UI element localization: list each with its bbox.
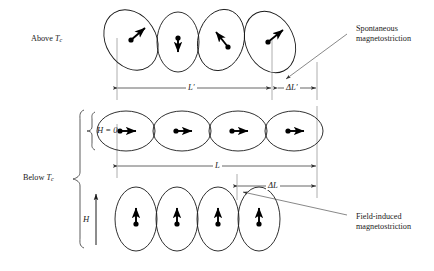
domain-row-above-tc xyxy=(93,0,305,81)
moment-vector-5 xyxy=(117,128,136,133)
moment-vector-10 xyxy=(174,208,179,227)
moment-vector-7 xyxy=(229,128,248,133)
guide-lines xyxy=(117,38,317,200)
h-zero-bracket xyxy=(87,112,95,150)
annotation-field-induced-line2: magnetostriction xyxy=(356,222,411,232)
moment-vector-9 xyxy=(133,208,138,227)
annotation-spontaneous-line2: magnetostriction xyxy=(356,34,411,44)
below-tc-prefix: Below xyxy=(23,173,46,182)
dimension-label-l-prime: L′ xyxy=(186,82,197,92)
moment-vector-12 xyxy=(256,208,261,227)
annotation-leaders xyxy=(243,34,347,215)
moment-vector-6 xyxy=(173,128,192,133)
annotation-field-induced: Field-induced magnetostriction xyxy=(356,212,411,231)
annotation-field-induced-line1: Field-induced xyxy=(356,212,411,222)
dimension-label-l: L xyxy=(213,160,222,170)
above-tc-subscript: c xyxy=(59,36,62,43)
magnetostriction-figure: Above Tc Below Tc H = 0 H L′ ΔL′ L ΔL Sp… xyxy=(0,0,434,271)
dimension-label-delta-l: ΔL xyxy=(266,180,280,190)
moment-vector-1 xyxy=(128,28,145,43)
moment-vector-2 xyxy=(175,35,180,52)
dimension-label-delta-l-prime: ΔL′ xyxy=(284,82,300,92)
moment-vector-3 xyxy=(216,32,231,50)
h-field-label: H xyxy=(83,214,89,224)
brackets xyxy=(73,110,95,248)
below-tc-subscript: c xyxy=(51,175,54,182)
annotation-spontaneous-line1: Spontaneous xyxy=(356,24,411,34)
measure-lines xyxy=(118,88,316,186)
h-zero-label: H = 0 xyxy=(97,125,118,135)
below-tc-bracket xyxy=(73,110,84,248)
above-tc-prefix: Above xyxy=(31,34,55,43)
annotation-spontaneous: Spontaneous magnetostriction xyxy=(356,24,411,43)
moment-vectors-above-tc xyxy=(128,28,283,52)
moment-vector-11 xyxy=(215,208,220,227)
below-tc-label: Below Tc xyxy=(23,173,54,183)
domain-row-h-applied xyxy=(115,187,280,251)
moment-vector-4 xyxy=(265,30,283,45)
domain-ellipse-3 xyxy=(191,4,251,75)
above-tc-label: Above Tc xyxy=(31,34,62,44)
moment-vector-8 xyxy=(285,128,304,133)
